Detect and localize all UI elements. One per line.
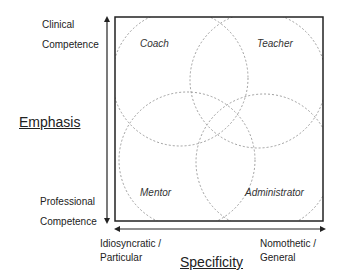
coach-circle [112, 10, 248, 146]
x-arrowhead-right [320, 226, 326, 232]
x-arrowhead-left [114, 226, 120, 232]
teacher-circle [190, 12, 326, 148]
role-mentor: Mentor [140, 187, 172, 198]
diagram-canvas: Coach Teacher Mentor Administrator [0, 0, 340, 277]
role-coach: Coach [140, 38, 169, 49]
role-teacher: Teacher [257, 38, 293, 49]
y-arrowhead-up [104, 16, 110, 22]
administrator-circle [196, 94, 332, 230]
y-arrowhead-down [104, 218, 110, 224]
role-administrator: Administrator [244, 187, 305, 198]
mentor-circle [119, 92, 255, 228]
